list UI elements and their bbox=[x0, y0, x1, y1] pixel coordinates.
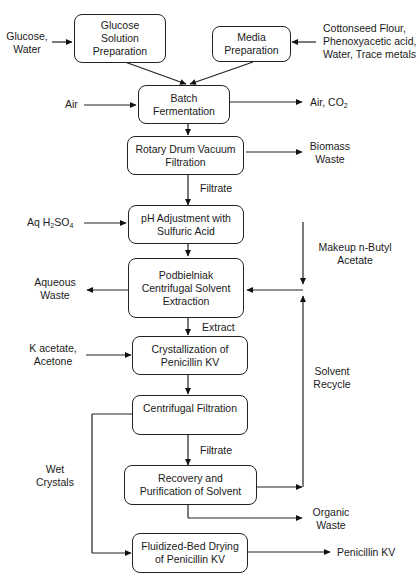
aq-sub-2: 4 bbox=[69, 222, 73, 229]
aqueous-waste-label: Aqueous Waste bbox=[32, 276, 78, 302]
air-in-label: Air bbox=[65, 98, 78, 111]
filtrate-label-2: Filtrate bbox=[200, 444, 232, 457]
glucose-solution-preparation-box: Glucose Solution Preparation bbox=[74, 14, 166, 63]
air-co2-sub: 2 bbox=[344, 102, 348, 109]
aq-text-1: Aq H bbox=[27, 216, 50, 228]
air-co2-text: Air, CO bbox=[310, 96, 344, 108]
batch-fermentation-box: Batch Fermentation bbox=[138, 85, 230, 124]
extract-label: Extract bbox=[202, 321, 235, 334]
crystallization-box: Crystallization of Penicillin KV bbox=[132, 336, 248, 375]
glucose-water-label: Glucose, Water bbox=[2, 30, 52, 56]
k-acetate-acetone-label: K acetate, Acetone bbox=[26, 342, 80, 368]
fluidized-bed-drying-box: Fluidized-Bed Drying of Penicillin KV bbox=[132, 533, 248, 573]
rotary-drum-filtration-box: Rotary Drum Vacuum Filtration bbox=[127, 136, 244, 175]
air-co2-label: Air, CO2 bbox=[310, 96, 348, 112]
wet-crystals-label: Wet Crystals bbox=[33, 463, 77, 489]
recovery-purification-box: Recovery and Purification of Solvent bbox=[124, 465, 257, 505]
ph-adjustment-box: pH Adjustment with Sulfuric Acid bbox=[128, 205, 244, 244]
podbielniak-extraction-box: Podbielniak Centrifugal Solvent Extracti… bbox=[128, 258, 244, 318]
media-preparation-box: Media Preparation bbox=[212, 26, 291, 62]
solvent-recycle-label: Solvent Recycle bbox=[310, 365, 354, 391]
centrifugal-filtration-box: Centrifugal Filtration bbox=[132, 395, 248, 435]
makeup-butyl-acetate-label: Makeup n-Butyl Acetate bbox=[310, 241, 400, 267]
penicillin-kv-product-label: Penicillin KV bbox=[337, 546, 395, 559]
media-inputs-label: Cottonseed Flour, Phenoxyacetic acid, Wa… bbox=[323, 22, 416, 61]
aq-text-2: SO bbox=[54, 216, 69, 228]
filtrate-label-1: Filtrate bbox=[200, 182, 232, 195]
organic-waste-label: Organic Waste bbox=[308, 506, 354, 532]
aq-h2so4-label: Aq H2SO4 bbox=[27, 216, 73, 232]
biomass-waste-label: Biomass Waste bbox=[306, 140, 354, 166]
